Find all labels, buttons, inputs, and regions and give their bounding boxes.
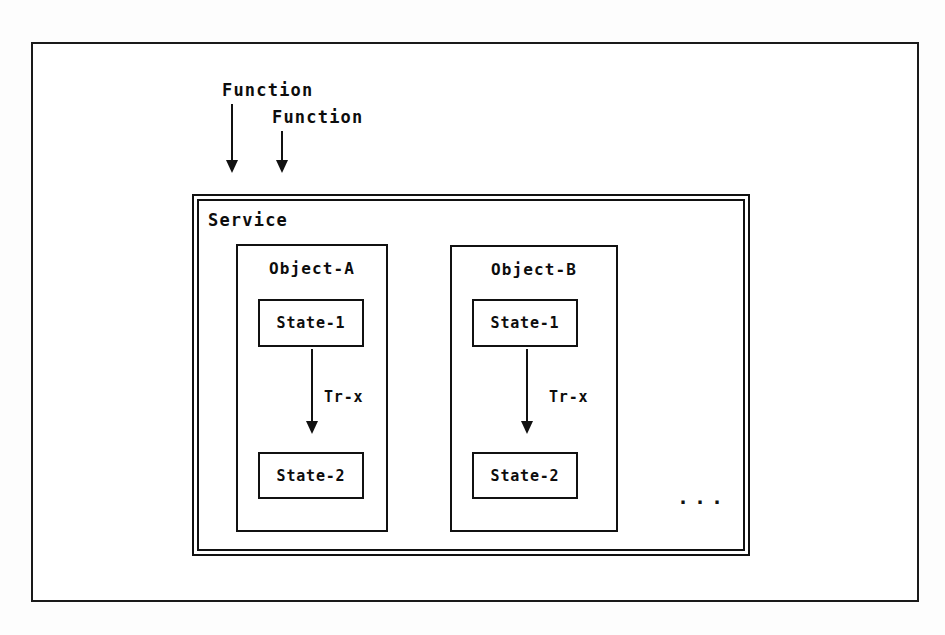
transition-label-b: Tr-x — [549, 388, 588, 406]
transition-label-a: Tr-x — [324, 388, 363, 406]
more-objects-ellipsis: ... — [677, 485, 728, 509]
state-box-b-2: State-2 — [472, 452, 578, 499]
service-label: Service — [208, 210, 288, 230]
arrow-shaft — [281, 131, 283, 162]
object-label-a: Object-A — [238, 259, 386, 278]
down-arrow-icon — [521, 421, 533, 434]
state-box-b-1: State-1 — [472, 299, 578, 347]
diagram-canvas: Function Function Service Object-A State… — [0, 0, 945, 635]
down-arrow-icon — [226, 160, 238, 173]
state-box-a-1: State-1 — [258, 299, 364, 347]
arrow-shaft — [231, 104, 233, 162]
state-box-a-2: State-2 — [258, 452, 364, 499]
function-label-2: Function — [272, 107, 363, 127]
function-label-1: Function — [222, 80, 313, 100]
caption-sliver — [86, 622, 846, 635]
arrow-shaft — [311, 349, 313, 423]
object-label-b: Object-B — [452, 260, 616, 279]
arrow-shaft — [526, 349, 528, 423]
down-arrow-icon — [276, 160, 288, 173]
down-arrow-icon — [306, 421, 318, 434]
